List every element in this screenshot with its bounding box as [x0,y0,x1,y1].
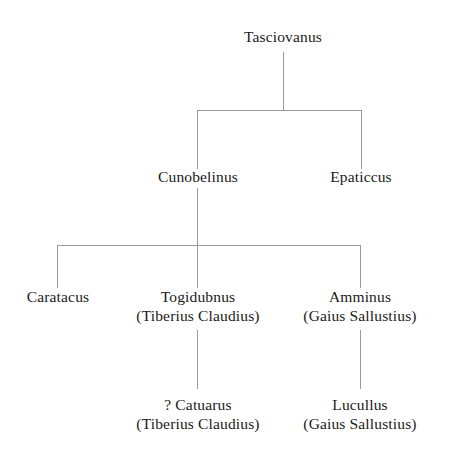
node-label-primary: Amminus [303,288,416,307]
node-label-alt: (Gaius Sallustius) [303,307,416,326]
node-caratacus: Caratacus [27,288,89,306]
node-tasciovanus: Tasciovanus [244,28,322,46]
node-amminus: Amminus (Gaius Sallustius) [303,288,416,325]
node-label-primary: Caratacus [27,288,89,306]
node-catuarus: ? Catuarus (Tiberius Claudius) [136,396,259,433]
node-cunobelinus: Cunobelinus [158,168,238,186]
node-togidubnus: Togidubnus (Tiberius Claudius) [136,288,259,325]
node-label-alt: (Tiberius Claudius) [136,307,259,326]
node-lucullus: Lucullus (Gaius Sallustius) [303,396,416,433]
node-label-alt: (Gaius Sallustius) [303,415,416,434]
node-label-primary: Togidubnus [136,288,259,307]
node-label-primary: Epaticcus [330,168,392,186]
node-label-primary: Lucullus [303,396,416,415]
connector-layer [0,0,469,462]
node-label-primary: ? Catuarus [136,396,259,415]
node-label-primary: Cunobelinus [158,168,238,186]
node-epaticcus: Epaticcus [330,168,392,186]
family-tree-diagram: Tasciovanus Cunobelinus Epaticcus Carata… [0,0,469,462]
node-label-alt: (Tiberius Claudius) [136,415,259,434]
node-label-primary: Tasciovanus [244,28,322,46]
